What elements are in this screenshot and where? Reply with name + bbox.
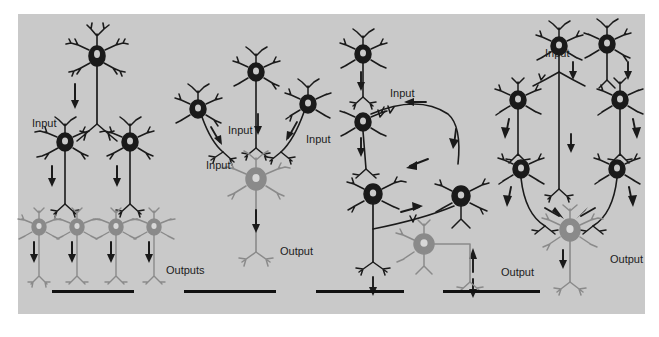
arrow-input <box>71 84 79 109</box>
neuron-dark <box>100 117 154 217</box>
figure-panel-area: Input Outputs Input Input Input Output I… <box>18 14 645 314</box>
panel-divergence-graphic <box>18 14 178 314</box>
neuron-gray <box>56 208 98 284</box>
neuron-gray <box>18 208 60 287</box>
panel-feedback <box>328 14 493 314</box>
neuron-dark <box>340 29 387 109</box>
label-input-panel2-right: Input <box>306 134 330 145</box>
neuron-dark <box>584 19 631 88</box>
label-input-panel2-center: Input <box>228 125 252 136</box>
arrow-output <box>30 242 153 263</box>
neuron-gray <box>95 208 137 284</box>
arrow-mid <box>48 166 121 187</box>
label-outputs-panel1: Outputs <box>166 265 205 276</box>
scalebar-panel1 <box>52 290 134 293</box>
arrow-input <box>211 114 297 145</box>
arrow-output <box>559 250 567 269</box>
label-output-panel4: Output <box>610 254 643 265</box>
neuron-dark <box>233 47 280 160</box>
label-input-panel2-left: Input <box>206 160 230 171</box>
panel-divergence <box>18 14 178 314</box>
neuron-dark <box>498 154 558 234</box>
panel-feedback-graphic <box>328 14 493 314</box>
neural-circuit-figure: Input Outputs Input Input Input Output I… <box>0 0 659 337</box>
scalebar-panel2 <box>184 290 276 293</box>
neuron-dark <box>267 79 331 164</box>
neuron-dark <box>495 78 541 163</box>
label-input-panel1: Input <box>32 118 56 129</box>
neuron-dark <box>435 179 489 228</box>
label-output-panel2: Output <box>280 246 313 257</box>
scalebar-panel3 <box>316 290 404 293</box>
neuron-dark <box>597 78 643 163</box>
arrow-output <box>252 210 260 233</box>
neuron-gray <box>396 220 483 291</box>
neuron-dark <box>175 84 236 165</box>
scalebar-panel4 <box>443 290 540 293</box>
label-input-panel4: Input <box>545 48 569 59</box>
neuron-gray <box>542 205 603 295</box>
neuron-dark <box>66 23 128 141</box>
neuron-dark <box>340 104 459 178</box>
label-output-panel3: Output <box>501 267 534 278</box>
label-input-panel3: Input <box>390 88 414 99</box>
